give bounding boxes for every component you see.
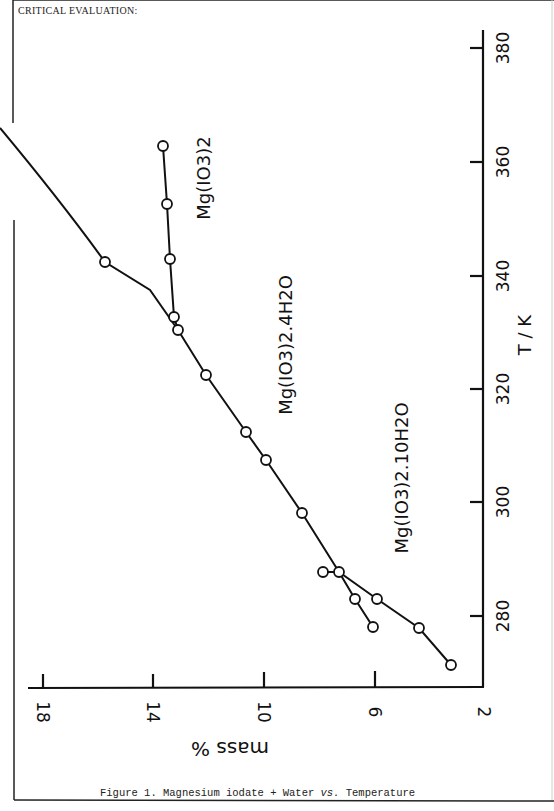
curves: [0, 128, 451, 665]
m-tick-10: 10: [254, 701, 274, 723]
solubility-chart: 380 360 340 320 300 280 T / K 18 14 10 6…: [0, 0, 554, 811]
label-anhydrous: Mg(IO3)2: [193, 136, 214, 219]
caption-prefix: Figure 1. Magnesium iodate + Water: [100, 787, 321, 799]
t-tick-380: 380: [493, 32, 513, 64]
mass-axis-label: mass %: [191, 737, 269, 761]
t-axis-label: T / K: [514, 314, 535, 357]
m-tick-2: 2: [474, 707, 494, 718]
m-tick-18: 18: [33, 701, 53, 723]
t-axis-tick-labels: 380 360 340 320 300 280 T / K: [493, 32, 535, 632]
figure-caption: Figure 1. Magnesium iodate + Water vs. T…: [100, 787, 415, 799]
t-tick-340: 340: [493, 260, 513, 292]
curve-anhydrous: [163, 146, 178, 330]
t-tick-360: 360: [493, 146, 513, 178]
t-tick-280: 280: [493, 600, 513, 632]
t-tick-320: 320: [493, 373, 513, 405]
mass-axis-tick-labels: 18 14 10 6 2 mass %: [33, 701, 494, 761]
caption-vs: vs.: [321, 787, 340, 799]
m-tick-14: 14: [143, 701, 163, 723]
t-tick-300: 300: [493, 486, 513, 518]
m-tick-6: 6: [365, 707, 385, 718]
axes: [28, 30, 484, 688]
caption-suffix: Temperature: [339, 787, 415, 799]
label-decahydrate: Mg(IO3)2.10H2O: [391, 402, 412, 553]
curve-decahydrate: [323, 572, 451, 665]
label-tetrahydrate: Mg(IO3)2.4H2O: [275, 275, 296, 415]
